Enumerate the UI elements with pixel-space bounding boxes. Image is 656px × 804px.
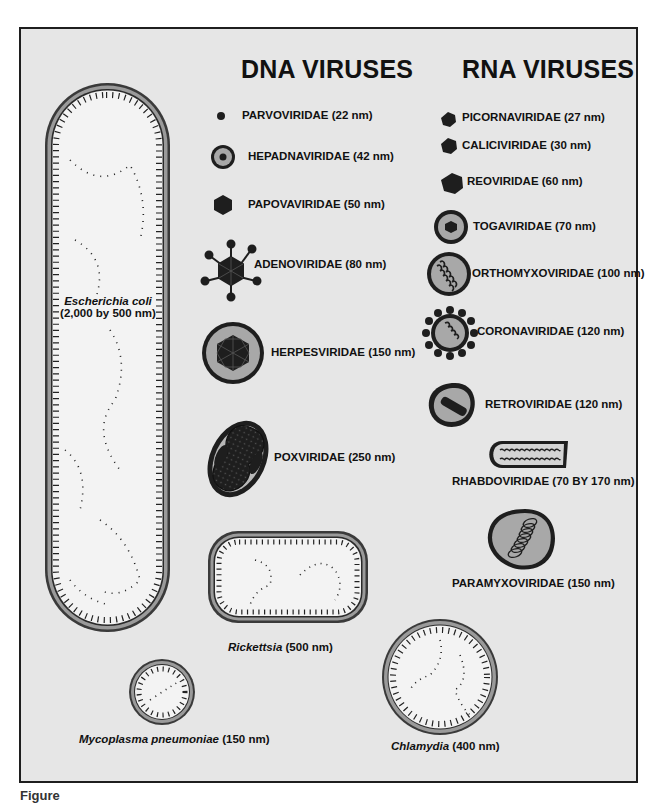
label-orthomyxoviridae: ORTHOMYXOVIRIDAE (100 nm) (472, 267, 645, 279)
caption-rickettsia-name: Rickettsia (228, 641, 282, 653)
mycoplasma-cell-icon (129, 659, 195, 725)
caption-mycoplasma-size: (150 nm) (219, 733, 270, 745)
poxviridae-icon (196, 411, 281, 507)
rhabdoviridae-icon (489, 441, 568, 468)
label-paramyxoviridae: PARAMYXOVIRIDAE (150 nm) (452, 577, 615, 589)
label-reoviridae: REOVIRIDAE (60 nm) (467, 175, 583, 187)
label-adenoviridae: ADENOVIRIDAE (80 nm) (254, 258, 386, 270)
togaviridae-icon (434, 210, 468, 244)
caption-chlamydia-size: (400 nm) (449, 740, 500, 752)
parvoviridae-icon (217, 112, 225, 120)
caption-mycoplasma-name: Mycoplasma pneumoniae (79, 733, 219, 745)
caption-chlamydia: Chlamydia (400 nm) (391, 740, 500, 752)
chlamydia-cell-icon (382, 619, 498, 735)
coronaviridae-icon (422, 306, 478, 360)
label-picornaviridae: PICORNAVIRIDAE (27 nm) (462, 111, 605, 123)
label-papovaviridae: PAPOVAVIRIDAE (50 nm) (248, 198, 385, 210)
retroviridae-icon (429, 383, 475, 427)
herpesviridae-icon (202, 322, 264, 384)
caption-chlamydia-name: Chlamydia (391, 740, 449, 752)
caption-rickettsia-size: (500 nm) (282, 641, 333, 653)
ecoli-cell-icon (45, 83, 170, 632)
picornaviridae-icon (441, 112, 456, 127)
orthomyxoviridae-icon (427, 252, 471, 296)
reoviridae-icon (441, 173, 463, 194)
caption-mycoplasma: Mycoplasma pneumoniae (150 nm) (79, 733, 269, 745)
caption-rickettsia: Rickettsia (500 nm) (228, 641, 333, 653)
label-caliciviridae: CALICIVIRIDAE (30 nm) (462, 139, 591, 151)
adenoviridae-icon (202, 241, 261, 301)
label-hepadnaviridae: HEPADNAVIRIDAE (42 nm) (248, 150, 394, 162)
label-parvoviridae: PARVOVIRIDAE (22 nm) (242, 109, 373, 121)
label-coronaviridae: CORONAVIRIDAE (120 nm) (477, 325, 624, 337)
label-herpesviridae: HERPESVIRIDAE (150 nm) (271, 346, 415, 358)
caliciviridae-icon (441, 138, 457, 154)
label-rhabdoviridae: RHABDOVIRIDAE (70 BY 170 nm) (452, 475, 635, 487)
label-retroviridae: RETROVIRIDAE (120 nm) (485, 398, 622, 410)
caption-ecoli: Escherichia coli (2,000 by 500 nm) (52, 295, 164, 319)
papovaviridae-icon (214, 195, 232, 215)
caption-ecoli-name: Escherichia coli (64, 295, 152, 307)
rickettsia-cell-icon (208, 531, 368, 623)
paramyxoviridae-icon (488, 509, 555, 570)
label-togaviridae: TOGAVIRIDAE (70 nm) (473, 220, 596, 232)
hepadnaviridae-icon (211, 145, 235, 169)
label-poxviridae: POXVIRIDAE (250 nm) (274, 451, 395, 463)
figure-label: Figure (20, 788, 60, 803)
caption-ecoli-size: (2,000 by 500 nm) (60, 307, 156, 319)
